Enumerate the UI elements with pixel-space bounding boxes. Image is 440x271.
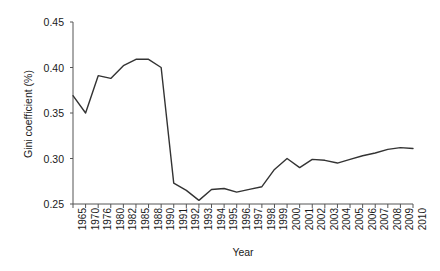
- plot-area: [0, 0, 440, 271]
- gini-series-line: [73, 59, 413, 200]
- axis-tick-marks: [70, 22, 413, 208]
- axis-lines: [73, 22, 413, 204]
- gini-coefficient-line-chart: Gini coefficient (%) Year 0.250.300.350.…: [0, 0, 440, 271]
